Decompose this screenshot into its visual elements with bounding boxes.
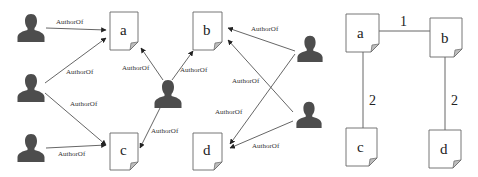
document-fold-icon <box>130 162 138 170</box>
edge-weight-a-c: 2 <box>369 93 376 108</box>
person-icon <box>296 102 321 128</box>
edge-label-p6-b: AuthorOf <box>232 77 260 85</box>
document-d: d <box>429 130 461 168</box>
document-label: a <box>120 22 127 38</box>
document-fold-icon <box>130 42 138 50</box>
document-label: d <box>440 141 448 157</box>
document-a: a <box>346 14 379 52</box>
document-fold-icon <box>369 158 377 166</box>
document-b: b <box>193 12 222 50</box>
edge-label-p4-b: AuthorOf <box>180 66 208 74</box>
document-label: b <box>441 30 449 46</box>
left-graph-authors <box>18 14 323 162</box>
edge-p1-a <box>46 28 106 30</box>
document-b: b <box>430 18 462 57</box>
edge-label-p3-c: AuthorOf <box>58 150 86 158</box>
edge-label-p4-a: AuthorOf <box>122 64 150 72</box>
edge-label-p4-c: AuthorOf <box>151 127 179 135</box>
document-fold-icon <box>214 162 222 170</box>
edge-label-p5-d: AuthorOf <box>215 108 243 116</box>
document-label: c <box>357 139 364 155</box>
edge-label-p1-a: AuthorOf <box>56 18 84 26</box>
edge-label-p2-c: AuthorOf <box>70 100 98 108</box>
person-icon <box>18 134 45 162</box>
person-icon <box>297 36 322 62</box>
person-icon <box>155 80 182 108</box>
edge-p3-c <box>46 145 106 148</box>
document-fold-icon <box>371 44 379 52</box>
document-label: b <box>203 22 211 38</box>
document-fold-icon <box>454 49 462 57</box>
edge-label-p6-d: AuthorOf <box>252 142 280 150</box>
document-a: a <box>110 12 138 50</box>
edge-label-p2-a: AuthorOf <box>66 68 94 76</box>
document-c: c <box>110 133 138 170</box>
document-label: a <box>357 25 364 41</box>
document-c: c <box>346 128 377 166</box>
edge-label-p5-b: AuthorOf <box>251 25 279 33</box>
person-icon <box>18 74 45 102</box>
diagram-canvas: AuthorOf AuthorOf AuthorOf AuthorOf Auth… <box>0 0 478 177</box>
document-label: d <box>203 142 211 158</box>
edge-weight-a-b: 1 <box>400 14 407 29</box>
document-label: c <box>120 142 127 158</box>
person-icon <box>18 14 45 42</box>
edge-weight-b-d: 2 <box>451 93 458 108</box>
edge-p2-a <box>45 38 106 83</box>
edge-p5-d <box>230 54 295 144</box>
document-fold-icon <box>453 160 461 168</box>
document-d: d <box>193 133 222 170</box>
document-fold-icon <box>214 42 222 50</box>
